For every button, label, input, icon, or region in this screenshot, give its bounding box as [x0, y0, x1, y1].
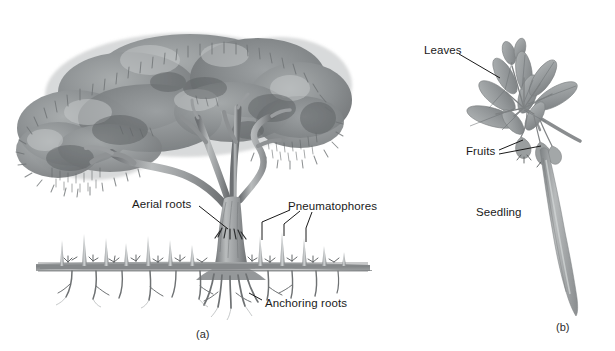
label-fruits: Fruits — [466, 145, 495, 157]
label-anchoring-roots: Anchoring roots — [265, 297, 347, 309]
leader-pneumatophore-3 — [306, 212, 312, 242]
label-pneumatophores: Pneumatophores — [288, 200, 377, 212]
panel-b-illustration — [459, 37, 581, 316]
leader-pneumatophore-2 — [284, 211, 300, 236]
leader-lines-panel-a — [199, 206, 312, 300]
tree-canopy — [16, 33, 352, 180]
mangrove-figure: Aerial roots Pneumatophores Anchoring ro… — [0, 0, 615, 351]
fruit — [516, 137, 531, 159]
label-aerial-roots: Aerial roots — [132, 198, 191, 210]
label-seedling: Seedling — [476, 206, 522, 218]
leaves-group — [465, 37, 582, 138]
seedling-propagule — [540, 148, 578, 316]
pneumatophore — [60, 234, 195, 266]
fine-rootlets — [56, 297, 252, 320]
leader-pneumatophore-1 — [262, 210, 290, 240]
caption-panel-b: (b) — [556, 321, 569, 333]
label-leaves: Leaves — [424, 44, 462, 56]
panel-a-illustration — [16, 33, 372, 320]
caption-panel-a: (a) — [196, 328, 209, 340]
